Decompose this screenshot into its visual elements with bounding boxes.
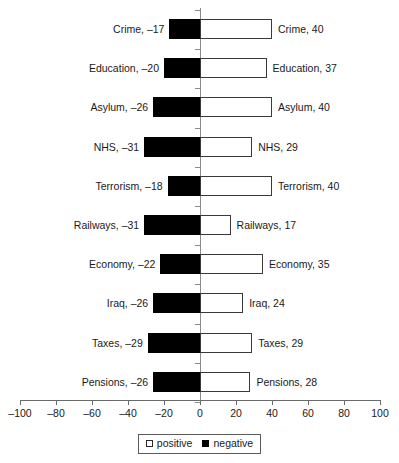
bar-label-negative: Crime, –17 (113, 22, 164, 36)
bar-label-negative: Asylum, –26 (90, 100, 148, 114)
bar-positive (200, 137, 252, 157)
bar-positive (200, 58, 267, 78)
diverging-bar-chart: Crime, –17Crime, 40Education, –20Educati… (0, 0, 399, 463)
zero-axis-tick (195, 324, 200, 325)
x-axis-tick-label: –60 (72, 407, 112, 420)
bar-positive (200, 176, 272, 196)
zero-axis-tick (195, 167, 200, 168)
bar-label-positive: Iraq, 24 (249, 296, 285, 310)
bar-positive (200, 215, 231, 235)
x-axis-tick-label: –40 (108, 407, 148, 420)
zero-axis-tick (195, 206, 200, 207)
bar-label-negative: Terrorism, –18 (96, 179, 163, 193)
legend-swatch-negative-icon (202, 440, 209, 447)
bar-positive (200, 254, 263, 274)
zero-axis-tick (195, 49, 200, 50)
x-axis-tick (344, 400, 345, 405)
zero-axis-tick (195, 284, 200, 285)
bar-negative (164, 58, 200, 78)
bar-label-negative: Taxes, –29 (92, 336, 143, 350)
bar-negative (169, 19, 200, 39)
legend-swatch-positive-icon (146, 440, 153, 447)
zero-axis-tick (195, 363, 200, 364)
legend-entry-positive: positive (146, 437, 193, 450)
zero-axis-tick (195, 88, 200, 89)
plot-area: Crime, –17Crime, 40Education, –20Educati… (0, 0, 399, 400)
bar-label-positive: Railways, 17 (237, 218, 297, 232)
x-axis-tick-label: 100 (360, 407, 399, 420)
x-axis-tick (92, 400, 93, 405)
bar-label-positive: Asylum, 40 (278, 100, 330, 114)
bar-label-positive: Taxes, 29 (258, 336, 303, 350)
bar-negative (144, 215, 200, 235)
x-axis-tick-label: –80 (36, 407, 76, 420)
bar-row: Pensions, –26Pensions, 28 (0, 372, 399, 394)
x-axis-tick (200, 400, 201, 405)
x-axis-tick-label: 0 (180, 407, 220, 420)
x-axis-tick-label: 80 (324, 407, 364, 420)
bar-row: Education, –20Education, 37 (0, 58, 399, 80)
x-axis-tick (20, 400, 21, 405)
bar-negative (153, 293, 200, 313)
legend: positivenegative (0, 434, 399, 454)
bar-label-positive: Economy, 35 (269, 257, 330, 271)
legend-entry-negative: negative (202, 437, 253, 450)
bar-label-negative: Economy, –22 (89, 257, 155, 271)
bar-row: Economy, –22Economy, 35 (0, 254, 399, 276)
zero-axis-tick (195, 128, 200, 129)
bar-negative (148, 333, 200, 353)
x-axis-tick (56, 400, 57, 405)
legend-label: negative (213, 437, 253, 450)
bar-row: Asylum, –26Asylum, 40 (0, 97, 399, 119)
x-axis-tick (236, 400, 237, 405)
bar-positive (200, 97, 272, 117)
bar-negative (160, 254, 200, 274)
x-axis-tick (308, 400, 309, 405)
x-axis: –100–80–60–40–20020406080100 (0, 400, 399, 430)
bar-label-positive: Crime, 40 (278, 22, 324, 36)
bar-label-positive: Education, 37 (273, 61, 337, 75)
x-axis-tick (164, 400, 165, 405)
x-axis-tick (128, 400, 129, 405)
bar-label-negative: Iraq, –26 (107, 296, 148, 310)
bar-label-negative: Railways, –31 (74, 218, 139, 232)
zero-axis-tick (195, 245, 200, 246)
bar-row: Taxes, –29Taxes, 29 (0, 333, 399, 355)
bar-label-positive: NHS, 29 (258, 140, 298, 154)
bar-label-negative: NHS, –31 (94, 140, 140, 154)
bar-row: Railways, –31Railways, 17 (0, 215, 399, 237)
x-axis-tick-label: 60 (288, 407, 328, 420)
bar-negative (153, 97, 200, 117)
bar-row: Terrorism, –18Terrorism, 40 (0, 176, 399, 198)
bar-row: Crime, –17Crime, 40 (0, 19, 399, 41)
x-axis-tick-label: –20 (144, 407, 184, 420)
legend-box: positivenegative (138, 434, 261, 454)
bar-positive (200, 372, 250, 392)
legend-label: positive (157, 437, 193, 450)
bar-label-negative: Pensions, –26 (82, 375, 149, 389)
bar-label-negative: Education, –20 (89, 61, 159, 75)
bar-negative (168, 176, 200, 196)
bar-positive (200, 333, 252, 353)
x-axis-tick-label: 20 (216, 407, 256, 420)
bar-label-positive: Terrorism, 40 (278, 179, 339, 193)
bar-row: Iraq, –26Iraq, 24 (0, 293, 399, 315)
bar-negative (153, 372, 200, 392)
x-axis-tick-label: 40 (252, 407, 292, 420)
x-axis-tick-label: –100 (0, 407, 40, 420)
bar-negative (144, 137, 200, 157)
x-axis-tick (380, 400, 381, 405)
bar-positive (200, 293, 243, 313)
zero-axis-tick (195, 10, 200, 11)
bar-positive (200, 19, 272, 39)
x-axis-tick (272, 400, 273, 405)
bar-label-positive: Pensions, 28 (256, 375, 317, 389)
bar-row: NHS, –31NHS, 29 (0, 137, 399, 159)
